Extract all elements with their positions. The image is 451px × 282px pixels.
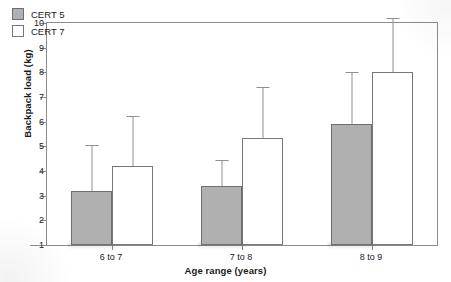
error-bar-cap	[386, 18, 399, 19]
y-axis-tick-label: 5	[39, 141, 44, 151]
bar-cert-7-6-to-7	[112, 166, 153, 245]
x-axis-category-label: 8 to 9	[360, 252, 383, 262]
plot-area: 12345678910	[47, 23, 437, 245]
y-axis-tick-label: 3	[39, 191, 44, 201]
legend-label-cert7: CERT 7	[31, 26, 64, 37]
plot-frame: 12345678910	[46, 22, 438, 246]
bar-cert-5-8-to-9	[331, 124, 372, 245]
bar-cert-7-7-to-8	[242, 138, 283, 245]
bar-chart-figure: 12345678910 Backpack load (kg) Age range…	[0, 0, 451, 282]
y-axis-tick-label: 9	[39, 43, 44, 53]
x-axis-category-label: 6 to 7	[100, 252, 123, 262]
legend-swatch-cert7	[12, 25, 24, 37]
y-axis-title: Backpack load (kg)	[22, 19, 33, 169]
y-axis-tick-label: 8	[39, 67, 44, 77]
x-axis-title: Age range (years)	[0, 265, 451, 276]
y-axis-tick-label: 7	[39, 92, 44, 102]
error-bar-cap	[215, 160, 228, 161]
bar-cert-5-6-to-7	[71, 191, 112, 245]
bar-cert-5-7-to-8	[201, 186, 242, 245]
y-axis-tick-label: 4	[39, 166, 44, 176]
error-bar-cap	[126, 116, 139, 117]
bar-cert-7-8-to-9	[372, 72, 413, 245]
legend-swatch-cert5	[12, 8, 24, 20]
x-axis-category-label: 7 to 8	[230, 252, 253, 262]
legend-label-cert5: CERT 5	[31, 9, 64, 20]
error-bar-stem	[221, 160, 222, 186]
error-bar-stem	[262, 87, 263, 138]
y-axis-tick-label: 2	[39, 215, 44, 225]
error-bar-stem	[91, 145, 92, 191]
legend-item-cert7: CERT 7	[12, 25, 64, 37]
legend: CERT 5 CERT 7	[12, 8, 64, 37]
error-bar-cap	[256, 87, 269, 88]
error-bar-cap	[85, 145, 98, 146]
error-bar-stem	[132, 116, 133, 167]
y-axis-tick-label: 6	[39, 117, 44, 127]
y-axis-tick-label: 1	[39, 240, 44, 250]
error-bar-cap	[345, 72, 358, 73]
error-bar-stem	[351, 72, 352, 124]
error-bar-stem	[392, 18, 393, 72]
legend-item-cert5: CERT 5	[12, 8, 64, 20]
